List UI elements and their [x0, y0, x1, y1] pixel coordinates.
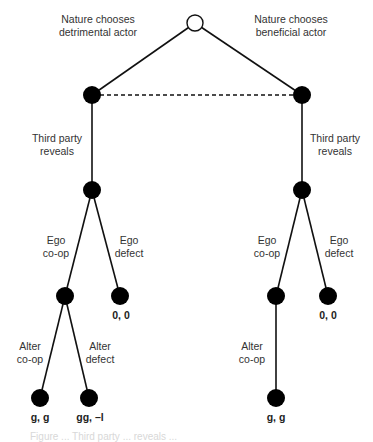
payoff-right-alter-coop: g, g: [267, 411, 286, 423]
label-left-ego-defect: Ego defect: [115, 234, 144, 260]
tree-edges: [40, 23, 328, 398]
label-left-alter-coop: Alter co-op: [17, 340, 43, 366]
label-nature-detrimental: Nature chooses detrimental actor: [59, 13, 137, 39]
node-detrimental: [83, 86, 101, 104]
payoff-right-ego-defect: 0, 0: [319, 309, 337, 321]
label-left-alter-defect: Alter defect: [86, 340, 115, 366]
label-right-ego-defect: Ego defect: [325, 234, 354, 260]
label-right-ego-coop: Ego co-op: [254, 234, 280, 260]
payoff-left-alter-defect: gg, –l: [76, 411, 103, 423]
node-left-alter-coop: [31, 389, 49, 407]
node-left-alter-defect: [80, 389, 98, 407]
node-right-ego-defect: [319, 287, 337, 305]
node-left-ego-defect: [111, 287, 129, 305]
node-left-ego-coop: [56, 287, 74, 305]
node-right-alter-coop: [267, 389, 285, 407]
edge-left-alter-coop: [40, 296, 65, 398]
label-left-ego-coop: Ego co-op: [43, 234, 69, 260]
node-beneficial: [293, 86, 311, 104]
label-nature-beneficial: Nature chooses beneficial actor: [254, 13, 328, 39]
figure-caption: Figure ... Third party ... reveals ...: [30, 431, 177, 442]
nature-root-node: [187, 15, 203, 31]
label-right-alter-coop: Alter co-op: [239, 340, 265, 366]
payoff-left-ego-defect: 0, 0: [112, 309, 130, 321]
payoff-left-alter-coop: g, g: [31, 411, 50, 423]
label-left-third-party: Third party reveals: [32, 132, 82, 158]
node-right-ego-coop: [267, 287, 285, 305]
label-right-third-party: Third party reveals: [310, 132, 360, 158]
node-right-revealed: [293, 181, 311, 199]
node-left-revealed: [83, 181, 101, 199]
